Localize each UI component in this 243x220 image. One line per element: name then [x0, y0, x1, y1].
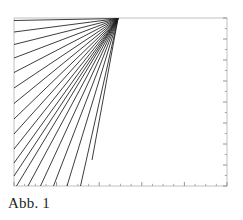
- ray-fan-plot: [0, 0, 243, 196]
- plot-area: [0, 0, 243, 196]
- figure-caption: Abb. 1: [8, 193, 50, 213]
- figure-container: Abb. 1: [0, 0, 243, 220]
